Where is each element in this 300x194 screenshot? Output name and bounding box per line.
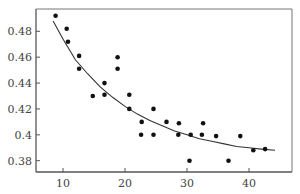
plot-frame <box>36 9 292 172</box>
data-point <box>115 55 120 60</box>
data-point <box>188 133 193 138</box>
data-point <box>251 148 256 153</box>
data-point <box>102 81 107 86</box>
x-tick-label: 40 <box>242 177 256 190</box>
data-points <box>53 14 267 164</box>
data-point <box>151 107 156 112</box>
data-point <box>91 94 96 99</box>
data-point <box>139 133 144 138</box>
data-point <box>77 54 82 59</box>
data-point <box>177 121 182 126</box>
data-point <box>226 158 231 163</box>
y-tick-label: 0.48 <box>8 25 33 38</box>
data-point <box>66 39 71 44</box>
data-point <box>139 120 144 125</box>
data-point <box>176 133 181 138</box>
data-point <box>238 134 243 139</box>
data-point <box>64 26 69 31</box>
data-point <box>115 67 120 72</box>
data-point <box>53 14 58 19</box>
data-point <box>127 107 132 112</box>
y-tick-label: 0.38 <box>8 155 33 168</box>
data-point <box>127 92 132 97</box>
data-point <box>200 133 205 138</box>
data-point <box>164 120 169 125</box>
data-point <box>77 67 82 72</box>
data-point <box>263 147 268 152</box>
x-tick-label: 10 <box>56 177 70 190</box>
y-tick-label: 0.42 <box>8 103 33 116</box>
y-tick-label: 0.46 <box>8 51 33 64</box>
x-tick-label: 30 <box>180 177 194 190</box>
x-tick-label: 20 <box>118 177 132 190</box>
fitted-curve <box>53 21 275 150</box>
y-tick-label: 0.4 <box>15 129 33 142</box>
data-point <box>201 121 206 126</box>
data-point <box>151 133 156 138</box>
fit-line <box>53 21 275 150</box>
data-point <box>102 92 107 97</box>
y-axis: 0.380.40.420.440.460.48 <box>8 25 41 167</box>
data-point <box>214 134 219 139</box>
scatter-chart: 0.380.40.420.440.460.48 10203040 <box>0 0 300 194</box>
data-point <box>187 158 192 163</box>
y-tick-label: 0.44 <box>8 77 33 90</box>
x-axis: 10203040 <box>56 168 256 190</box>
